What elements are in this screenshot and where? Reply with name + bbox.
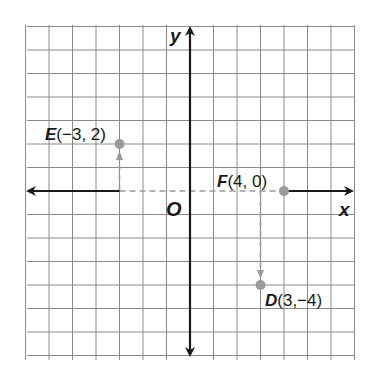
point-d-letter: D: [265, 291, 277, 310]
point-f-coords: (4, 0): [227, 172, 267, 191]
arrow-up-to-e-icon: [116, 151, 123, 160]
point-d-coords: (3,−4): [277, 291, 322, 310]
point-e: [115, 139, 125, 149]
point-d: [256, 280, 266, 290]
point-f: [279, 186, 289, 196]
y-axis-label: y: [169, 25, 182, 46]
coordinate-plane: y x O E(−3, 2) F(4, 0) D(3,−4): [0, 0, 368, 370]
arrow-down-to-d-icon: [257, 270, 264, 279]
point-f-label: F(4, 0): [217, 172, 267, 191]
point-e-coords: (−3, 2): [56, 125, 106, 144]
point-e-letter: E: [45, 125, 57, 144]
x-axis-label: x: [338, 199, 351, 220]
origin-label: O: [166, 198, 182, 220]
point-e-label: E(−3, 2): [45, 125, 106, 144]
point-d-label: D(3,−4): [265, 291, 322, 310]
point-f-letter: F: [217, 172, 228, 191]
